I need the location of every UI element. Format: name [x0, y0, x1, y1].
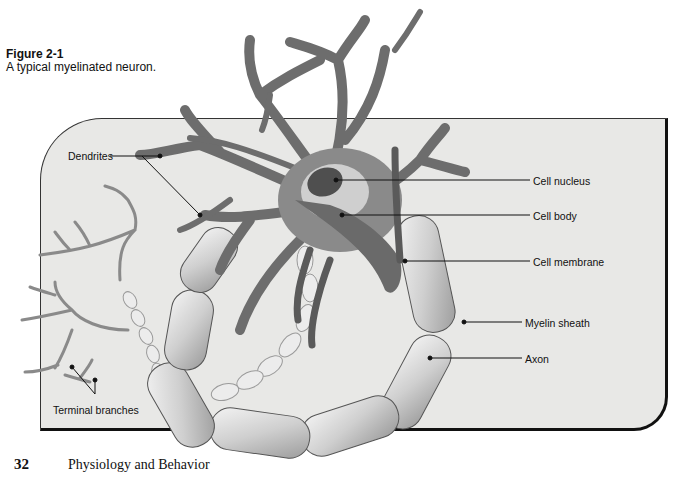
label-myelin-sheath: Myelin sheath	[525, 317, 590, 329]
label-cell-body: Cell body	[533, 210, 577, 222]
running-title: Physiology and Behavior	[68, 457, 210, 473]
label-axon: Axon	[525, 353, 549, 365]
page-number: 32	[14, 456, 29, 473]
label-cell-membrane: Cell membrane	[533, 256, 604, 268]
label-cell-nucleus: Cell nucleus	[533, 175, 590, 187]
label-terminal-branches: Terminal branches	[53, 404, 139, 416]
neuron-illustration	[0, 0, 688, 498]
label-dendrites: Dendrites	[68, 150, 113, 162]
